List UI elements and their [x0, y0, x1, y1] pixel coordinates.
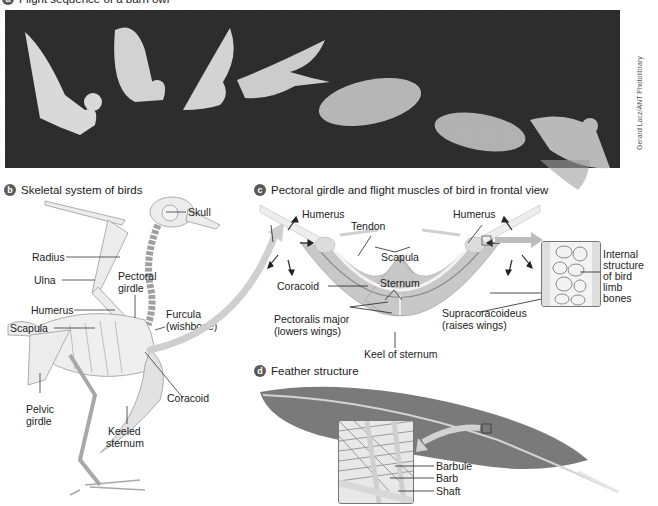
label-tendon: Tendon	[351, 220, 385, 232]
owl-6-icon	[432, 106, 529, 157]
label-radius: Radius	[32, 251, 65, 263]
keel-leader-line	[393, 332, 397, 348]
label-supracoracoideus-1: Supracoracoideus	[442, 307, 527, 319]
panel-c-heading: c Pectoral girdle and flight muscles of …	[254, 183, 548, 197]
label-humerus: Humerus	[31, 304, 74, 316]
label-scapula: Scapula	[10, 322, 48, 334]
panel-c-badge: c	[254, 184, 266, 196]
label-pelvic-girdle-2: girdle	[26, 415, 52, 427]
panel-d-heading: d Feather structure	[254, 364, 359, 378]
label-keel-of-sternum: Keel of sternum	[364, 348, 438, 360]
label-barbule: Barbule	[436, 460, 472, 472]
label-keeled-sternum-1: Keeled	[108, 425, 141, 437]
label-humerus-left: Humerus	[302, 208, 345, 220]
label-keeled-sternum-2: sternum	[106, 437, 144, 449]
label-pectoralis-2: (lowers wings)	[274, 325, 341, 337]
label-sternum: Sternum	[380, 277, 420, 289]
label-pectoralis-1: Pectoralis major	[274, 313, 349, 325]
trabecular-pattern-icon	[542, 242, 600, 306]
label-skull: Skull	[188, 206, 211, 218]
panel-d-badge: d	[254, 365, 266, 377]
panel-d-title: Feather structure	[271, 364, 359, 378]
label-pelvic-girdle-1: Pelvic	[26, 403, 54, 415]
label-shaft: Shaft	[436, 485, 461, 497]
bone-internal-structure-inset	[541, 241, 601, 307]
label-barb: Barb	[436, 472, 458, 484]
panel-c-title: Pectoral girdle and flight muscles of bi…	[271, 183, 548, 197]
label-scapula-c: Scapula	[381, 251, 419, 263]
label-humerus-right: Humerus	[453, 208, 496, 220]
label-coracoid-c: Coracoid	[277, 280, 319, 292]
feather-calamus	[578, 472, 618, 492]
owl-5-icon	[315, 70, 426, 135]
internal-structure-leader	[580, 270, 600, 274]
feather-leader-lines	[390, 460, 440, 500]
photo-credit: Gerard Lacz/ANT Photolibrary	[636, 56, 643, 150]
label-internal-5: bones	[603, 292, 632, 304]
label-pectoral-girdle-2: girdle	[118, 282, 144, 294]
owl-4-icon	[237, 40, 330, 98]
label-coracoid: Coracoid	[167, 392, 209, 404]
label-supracoracoideus-2: (raises wings)	[442, 319, 507, 331]
label-ulna: Ulna	[34, 274, 56, 286]
